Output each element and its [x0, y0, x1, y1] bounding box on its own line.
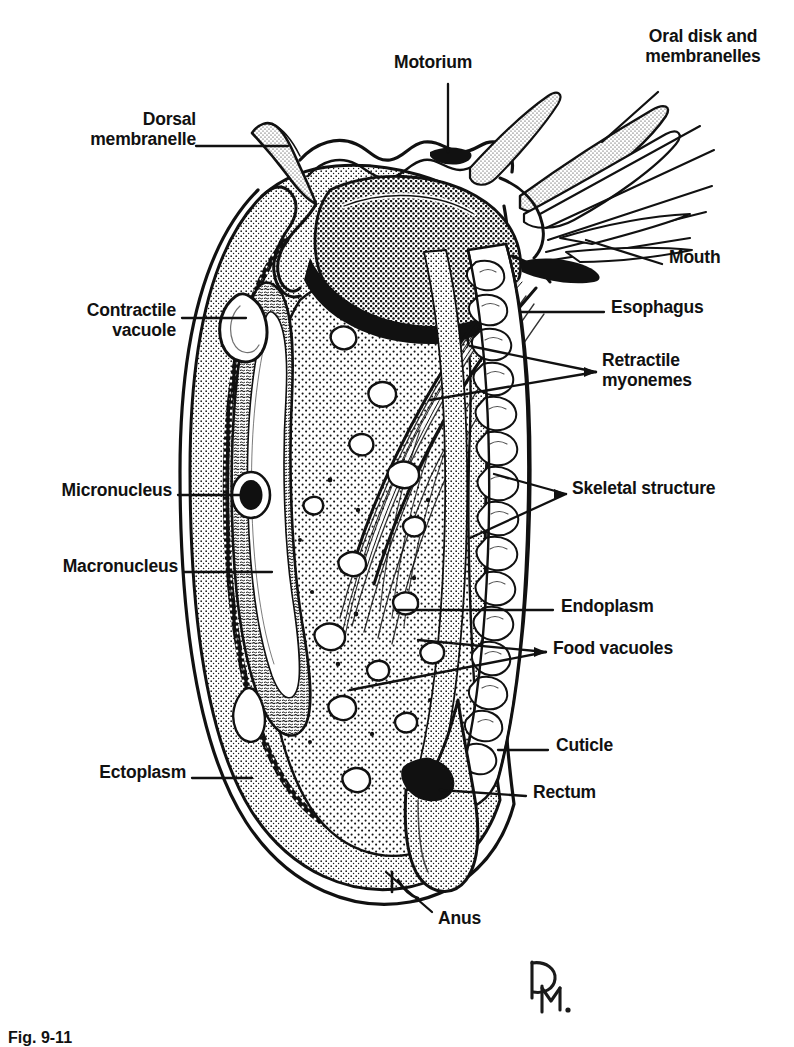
label-micronucleus: Micronucleus — [0, 480, 172, 500]
label-mouth: Mouth — [669, 247, 720, 267]
label-rectum: Rectum — [533, 782, 596, 802]
label-retractile-myonemes: Retractile myonemes — [602, 350, 692, 391]
label-anus: Anus — [438, 908, 481, 928]
label-oral-disk-and-membranelles: Oral disk and membranelles — [612, 26, 794, 67]
label-ectoplasm: Ectoplasm — [0, 762, 186, 782]
label-contractile-vacuole: Contractile vacuole — [0, 300, 176, 341]
label-macronucleus: Macronucleus — [0, 556, 178, 576]
label-endoplasm: Endoplasm — [561, 596, 654, 616]
label-skeletal-structure: Skeletal structure — [572, 478, 715, 498]
label-food-vacuoles: Food vacuoles — [553, 638, 673, 658]
label-esophagus: Esophagus — [611, 297, 704, 317]
label-motorium: Motorium — [394, 52, 472, 72]
label-dorsal-membranelle: Dorsal membranelle — [0, 109, 196, 150]
artist-signature — [520, 952, 600, 1018]
figure-caption: Fig. 9-11 — [8, 1029, 72, 1047]
label-cuticle: Cuticle — [556, 735, 613, 755]
